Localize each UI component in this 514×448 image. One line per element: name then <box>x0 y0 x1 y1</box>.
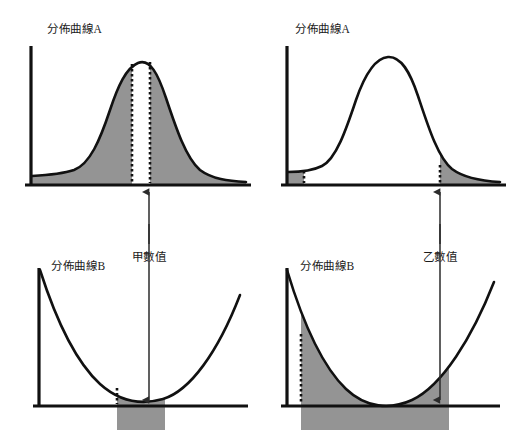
panel-top-left-shading <box>28 50 250 190</box>
distribution-curve-figure: 分佈曲線A 分佈曲線A <box>0 0 514 448</box>
panel-title-top-left: 分佈曲線A <box>47 22 102 35</box>
panel-bottom-left: 分佈曲線B <box>33 250 248 432</box>
panel-title-bottom-left: 分佈曲線B <box>51 259 106 272</box>
panel-top-right: 分佈曲線A <box>281 22 506 190</box>
parabola-curve-bottom-left <box>40 270 240 402</box>
figure-canvas: 分佈曲線A 分佈曲線A <box>0 0 514 448</box>
bell-curve-top-left <box>32 62 246 182</box>
panel-title-top-right: 分佈曲線A <box>295 22 350 35</box>
panel-title-bottom-right: 分佈曲線B <box>300 259 355 272</box>
bell-curve-top-right <box>288 57 500 182</box>
panel-top-left: 分佈曲線A <box>25 22 251 190</box>
panel-bottom-right: 分佈曲線B <box>281 250 500 432</box>
